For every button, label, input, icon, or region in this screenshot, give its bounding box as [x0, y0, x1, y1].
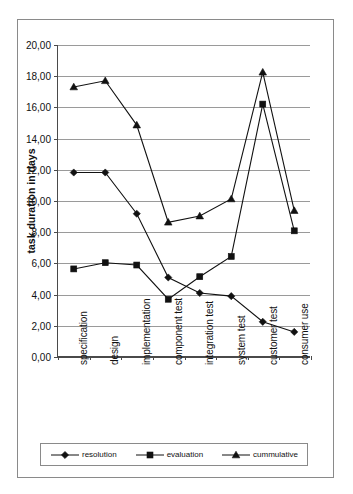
series-cummulative [70, 68, 298, 225]
y-tick-label: 14,00 [26, 133, 51, 144]
y-tick-label: 18,00 [26, 71, 51, 82]
data-point-evaluation [291, 228, 297, 234]
x-tick-mark [279, 356, 280, 360]
data-point-cummulative [290, 207, 298, 214]
series-line-resolution [74, 173, 295, 332]
series-resolution [70, 169, 298, 336]
data-point-resolution [291, 328, 298, 335]
y-tick-label: 8,00 [32, 227, 51, 238]
data-point-evaluation [102, 260, 108, 266]
y-tick-label: 4,00 [32, 289, 51, 300]
data-point-evaluation [260, 101, 266, 107]
legend-item-cummulative[interactable]: cummulative [221, 450, 298, 460]
x-tick-mark [248, 356, 249, 360]
x-tick-mark [90, 356, 91, 360]
legend-item-evaluation[interactable]: evaluation [135, 450, 203, 460]
x-tick-mark [185, 356, 186, 360]
legend-label: resolution [82, 450, 117, 459]
x-tick-mark [216, 356, 217, 360]
data-point-evaluation [228, 253, 234, 259]
plot-inner: 0,002,004,006,008,0010,0012,0014,0016,00… [58, 45, 310, 356]
chart-legend: resolutionevaluationcummulative [40, 443, 308, 466]
data-point-cummulative [227, 195, 235, 202]
y-tick-label: 2,00 [32, 320, 51, 331]
data-point-resolution [70, 169, 77, 176]
data-point-resolution [165, 274, 172, 281]
legend-marker-square-icon [135, 450, 165, 460]
legend-marker-triangle-icon [221, 450, 251, 460]
legend-item-resolution[interactable]: resolution [50, 450, 117, 460]
legend-marker-diamond-icon [50, 450, 80, 460]
data-point-evaluation [71, 266, 77, 272]
data-point-cummulative [259, 68, 267, 75]
y-tick-label: 6,00 [32, 258, 51, 269]
legend-label: evaluation [167, 450, 203, 459]
data-point-resolution [196, 289, 203, 296]
y-tick-label: 0,00 [32, 352, 51, 363]
series-plot [58, 45, 310, 356]
data-point-cummulative [196, 212, 204, 219]
data-point-evaluation [134, 262, 140, 268]
y-tick-label: 20,00 [26, 40, 51, 51]
x-tick-mark [121, 356, 122, 360]
legend-label: cummulative [253, 450, 298, 459]
plot-area: 0,002,004,006,008,0010,0012,0014,0016,00… [57, 45, 310, 357]
x-tick-mark [153, 356, 154, 360]
series-line-cummulative [74, 72, 295, 222]
x-tick-mark [311, 356, 312, 360]
y-tick-label: 16,00 [26, 102, 51, 113]
data-point-evaluation [197, 274, 203, 280]
series-line-evaluation [74, 104, 295, 299]
data-point-evaluation [165, 296, 171, 302]
y-tick-label: 10,00 [26, 196, 51, 207]
x-tick-mark [58, 356, 59, 360]
y-tick-label: 12,00 [26, 164, 51, 175]
data-point-cummulative [101, 77, 109, 84]
series-evaluation [71, 101, 297, 302]
